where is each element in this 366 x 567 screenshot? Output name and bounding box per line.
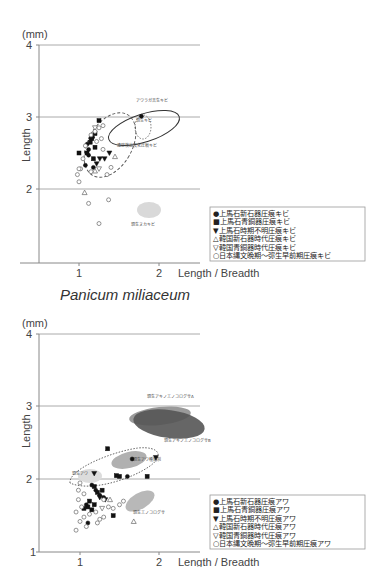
top-chart: (mm) 4 3 2 1 2 Length / Breadth Length ア… xyxy=(20,28,365,303)
data-point-filled-square xyxy=(97,119,101,123)
data-point-filled-square xyxy=(106,447,110,451)
data-point-open-triangle-up xyxy=(108,497,113,502)
data-point-open-circle xyxy=(89,170,93,174)
bottom-ytick-4: 4 xyxy=(26,328,32,340)
data-point-filled-square xyxy=(90,508,94,512)
data-point-open-circle xyxy=(78,519,82,523)
data-point-open-circle xyxy=(97,222,101,226)
ellipse-nukakibi xyxy=(137,202,161,218)
data-point-filled-circle xyxy=(139,114,143,118)
data-point-open-circle xyxy=(75,173,79,177)
data-point-filled-circle xyxy=(83,163,87,167)
species-title: Panicum miliaceum xyxy=(60,286,190,303)
bottom-chart: (mm) 4 3 2 1 1 2 Length / Breadth Length… xyxy=(20,317,365,567)
data-point-open-triangle-up xyxy=(82,190,87,195)
data-point-filled-square xyxy=(114,474,118,478)
data-point-open-circle xyxy=(81,157,85,161)
data-point-filled-square xyxy=(111,514,115,518)
bottom-xtick-1: 1 xyxy=(77,556,83,567)
figure: (mm) 4 3 2 1 2 Length / Breadth Length ア… xyxy=(0,0,366,567)
data-point-open-circle xyxy=(99,137,103,141)
data-point-open-circle xyxy=(82,515,86,519)
data-point-open-circle xyxy=(89,133,93,137)
data-point-open-circle xyxy=(82,492,86,496)
data-point-open-circle xyxy=(87,201,91,205)
data-point-filled-square xyxy=(91,157,95,161)
data-point-filled-square xyxy=(145,474,149,478)
ann-awaraga: アワラガ吉生キビ xyxy=(136,97,168,103)
data-point-filled-square xyxy=(92,485,96,489)
bottom-ytick-3: 3 xyxy=(26,400,32,412)
data-point-open-circle xyxy=(111,506,115,510)
data-point-open-circle xyxy=(80,505,84,509)
data-point-open-circle xyxy=(121,499,125,503)
top-legend-item: ○日本縄文晩期～弥生早前期圧痕キビ xyxy=(213,251,331,260)
data-point-open-circle xyxy=(97,126,101,130)
bottom-ytick-1: 1 xyxy=(30,546,36,558)
data-point-open-circle xyxy=(101,147,105,151)
bottom-ytick-2: 2 xyxy=(26,473,32,485)
ann-akinoenokoro-a: 現生アキノエノコログサA xyxy=(147,393,194,399)
data-point-open-triangle-down xyxy=(97,167,102,172)
data-point-open-circle xyxy=(78,481,82,485)
data-point-open-circle xyxy=(107,198,111,202)
data-point-open-circle xyxy=(76,498,80,502)
data-point-open-circle xyxy=(105,173,109,177)
data-point-open-circle xyxy=(77,180,81,184)
data-point-open-circle xyxy=(94,510,98,514)
data-point-filled-triangle-down xyxy=(102,157,107,162)
data-point-filled-square xyxy=(88,140,92,144)
data-point-filled-square xyxy=(85,151,89,155)
data-point-filled-square xyxy=(92,503,96,507)
data-point-open-circle xyxy=(102,498,106,502)
bottom-legend: ●上馬石新石器圧痕アワ ■上馬石青銅器圧痕アワ ▼上馬石時期不明圧痕アワ △韓国… xyxy=(210,495,365,549)
data-point-open-circle xyxy=(95,139,99,143)
ann-modern-kibi: 現生キビ xyxy=(136,117,152,123)
data-point-filled-circle xyxy=(125,474,129,478)
data-point-open-triangle-down xyxy=(100,506,105,511)
data-point-open-circle xyxy=(74,510,78,514)
data-point-open-triangle-up xyxy=(113,154,118,159)
data-point-open-circle xyxy=(102,515,106,519)
top-ytick-4: 4 xyxy=(26,39,32,51)
data-point-open-circle xyxy=(101,124,105,128)
bottom-legend-item: ○日本縄文晩期～弥生早前期圧痕アワ xyxy=(213,539,331,548)
data-point-open-circle xyxy=(76,488,80,492)
data-point-filled-square xyxy=(87,499,91,503)
data-point-open-triangle-up xyxy=(131,519,136,524)
data-point-filled-triangle-down xyxy=(94,162,99,167)
top-ytick-3: 3 xyxy=(26,111,32,123)
top-ytick-2: 2 xyxy=(26,183,32,195)
data-point-filled-square xyxy=(93,145,97,149)
data-point-filled-square xyxy=(95,490,99,494)
data-point-filled-square xyxy=(77,151,81,155)
data-point-filled-square xyxy=(86,505,90,509)
bottom-x-label: Length / Breadth xyxy=(178,556,259,567)
data-point-open-circle xyxy=(93,129,97,133)
data-point-open-circle xyxy=(74,528,78,532)
data-point-open-circle xyxy=(84,525,88,529)
data-point-open-circle xyxy=(87,512,91,516)
top-xtick-2: 2 xyxy=(156,267,162,279)
data-point-filled-triangle-down xyxy=(107,151,112,156)
data-point-open-circle xyxy=(95,521,99,525)
ann-enokorogusa: 現生エノコログサ xyxy=(133,509,165,515)
top-legend: ●上馬石新石器圧痕キビ ■上馬石青銅器圧痕キビ ▼上馬石時期不明圧痕キビ △韓国… xyxy=(210,207,365,261)
data-point-open-circle xyxy=(98,517,102,521)
top-data-points xyxy=(75,114,143,225)
ann-modern-awa: 現生アワ xyxy=(72,470,88,476)
top-xtick-1: 1 xyxy=(76,267,82,279)
data-point-open-circle xyxy=(106,505,110,509)
data-point-open-circle xyxy=(77,167,81,171)
bottom-xtick-2: 2 xyxy=(156,556,162,567)
data-point-filled-circle xyxy=(130,457,134,461)
ann-akinoenokoro-b: 現生アキノエノコログサB xyxy=(164,437,211,443)
data-point-open-circle xyxy=(118,503,122,507)
data-point-open-circle xyxy=(83,144,87,148)
data-point-filled-triangle-down xyxy=(97,157,102,162)
bottom-y-label: Length xyxy=(20,414,32,448)
top-y-label: Length xyxy=(20,128,32,162)
data-point-open-circle xyxy=(109,165,113,169)
ann-site-charred: 遺跡検出炭化圧痕キビ xyxy=(117,142,157,148)
data-point-filled-square xyxy=(100,488,104,492)
